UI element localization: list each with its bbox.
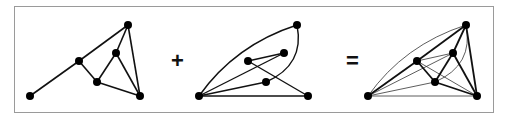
graph-union-thick-edges [368,25,477,96]
plus-operator: + [171,50,184,72]
equals-operator: = [346,50,359,72]
graph-1-nodes [26,21,144,100]
graph-1 [30,25,140,96]
graph-diagram [0,0,505,119]
graph-2 [199,25,308,96]
